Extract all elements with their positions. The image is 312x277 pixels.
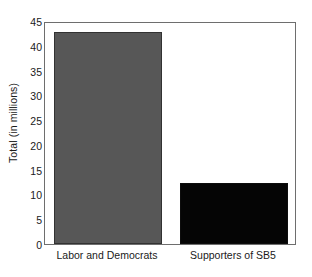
y-axis-tick-labels: 051015202530354045 [18,0,42,277]
y-axis-tick-label: 10 [30,190,42,201]
x-axis-category-labels: Labor and DemocratsSupporters of SB5 [44,250,296,272]
y-axis-tick-label: 30 [30,91,42,102]
x-axis-category-label: Labor and Democrats [57,250,158,262]
y-axis-tick-label: 35 [30,66,42,77]
y-axis-tick-label: 0 [36,240,42,251]
y-axis-tick-label: 40 [30,42,42,53]
y-axis-tick-label: 20 [30,141,42,152]
bar [180,183,288,244]
y-axis-tick-label: 5 [36,215,42,226]
bars-layer [45,23,295,244]
bar [54,32,162,244]
y-axis-tick-label: 25 [30,116,42,127]
y-axis-tick-label: 45 [30,17,42,28]
y-axis-tick-label: 15 [30,165,42,176]
x-axis-category-label: Supporters of SB5 [190,250,276,262]
plot-area [44,22,296,245]
bar-chart: Total (in millions) 051015202530354045 L… [0,0,312,277]
